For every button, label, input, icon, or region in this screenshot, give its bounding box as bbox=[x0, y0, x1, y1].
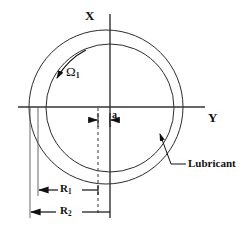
rotation-speed-label: Ω1 bbox=[66, 65, 80, 80]
lubricant-label: Lubricant bbox=[188, 158, 236, 169]
r2-symbol: R bbox=[60, 204, 68, 216]
lubricant-leader-line bbox=[160, 134, 186, 164]
x-axis-label: X bbox=[85, 9, 94, 22]
eccentricity-label: a bbox=[112, 110, 117, 120]
figure-canvas: X Y Ω1 a R1 R2 Lubricant bbox=[0, 0, 249, 237]
r1-label: R1 bbox=[60, 183, 72, 196]
omega-symbol: Ω bbox=[66, 64, 76, 79]
r2-subscript: 2 bbox=[68, 210, 72, 218]
r2-label: R2 bbox=[60, 205, 72, 218]
y-axis-label: Y bbox=[208, 111, 217, 124]
r1-subscript: 1 bbox=[68, 188, 72, 196]
r1-symbol: R bbox=[60, 182, 68, 194]
omega-subscript: 1 bbox=[76, 71, 80, 80]
